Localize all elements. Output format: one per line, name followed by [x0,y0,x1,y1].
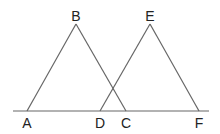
point-label-b: B [71,9,80,23]
point-label-a: A [22,116,31,130]
segment-de [100,24,150,111]
segment-bc [76,24,126,111]
diagram-lines [0,0,220,134]
point-label-e: E [145,9,154,23]
geometry-diagram: A B C D E F [0,0,220,134]
segment-ab [27,24,76,111]
triangle-segments [27,24,199,111]
point-label-d: D [95,116,105,130]
segment-ef [150,24,199,111]
point-label-c: C [121,116,131,130]
point-label-f: F [195,116,204,130]
